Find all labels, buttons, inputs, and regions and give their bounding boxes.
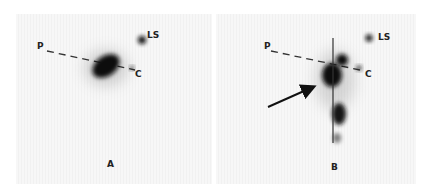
lower-spot (332, 103, 346, 125)
label-c-b: C (365, 70, 372, 79)
label-ls-b: LS (378, 33, 390, 42)
figure-graphics (0, 0, 430, 194)
label-c-a: C (135, 70, 142, 79)
c-spot (130, 66, 134, 70)
label-p-a: P (37, 42, 44, 51)
ls-spot (138, 36, 146, 44)
label-p-b: P (264, 42, 271, 51)
caption-a: A (107, 160, 114, 169)
faint-tail-spot (333, 133, 341, 143)
caption-b: B (331, 163, 338, 172)
label-ls-a: LS (147, 31, 159, 40)
c-spot (357, 66, 362, 71)
upper-spot (336, 54, 348, 66)
ls-spot (366, 35, 373, 42)
panel-a (47, 36, 146, 86)
panel-b (268, 35, 373, 144)
main-spot (322, 63, 342, 87)
pointer-arrow-icon (268, 87, 313, 107)
